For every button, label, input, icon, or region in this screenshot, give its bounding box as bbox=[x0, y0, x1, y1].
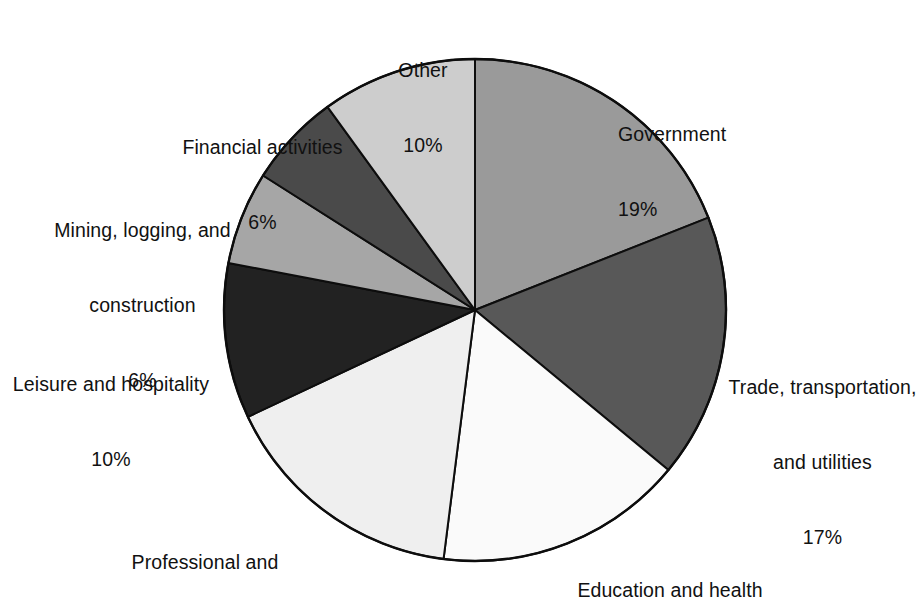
slice-label-mining-line-2: construction bbox=[10, 293, 275, 318]
slice-label-mining-line-1: Mining, logging, and bbox=[10, 218, 275, 243]
slice-label-government-name: Government bbox=[618, 122, 878, 147]
slice-label-trade-line-1: Trade, transportation, bbox=[724, 375, 921, 400]
slice-label-government: Government 19% bbox=[618, 72, 878, 272]
slice-label-government-value: 19% bbox=[618, 197, 878, 222]
slice-label-education-line-1: Education and health bbox=[555, 578, 785, 603]
slice-label-professional-line-1: Professional and bbox=[95, 550, 315, 575]
slice-label-financial-activities-name: Financial activities bbox=[120, 135, 405, 160]
slice-label-professional-business-services: Professional and business services 16% bbox=[95, 500, 315, 611]
slice-label-education-health-services: Education and health services 16% bbox=[555, 528, 785, 611]
slice-label-leisure-value: 10% bbox=[0, 447, 222, 472]
pie-chart: Other 10% Government 19% Financial activ… bbox=[0, 0, 921, 611]
slice-label-trade-line-2: and utilities bbox=[724, 450, 921, 475]
slice-label-leisure-hospitality: Leisure and hospitality 10% bbox=[0, 322, 222, 522]
slice-label-leisure-name: Leisure and hospitality bbox=[0, 372, 222, 397]
slice-label-other-name: Other bbox=[313, 58, 533, 83]
